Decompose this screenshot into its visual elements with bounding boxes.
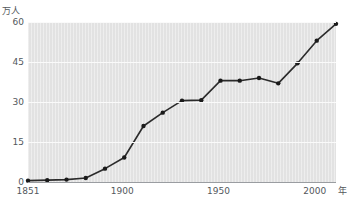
data-point-marker bbox=[257, 76, 261, 80]
y-axis-tick-label: 15 bbox=[13, 138, 24, 147]
data-point-marker bbox=[315, 38, 319, 42]
data-point-marker bbox=[84, 176, 88, 180]
data-point-marker bbox=[218, 78, 222, 82]
y-axis-tick-label: 60 bbox=[13, 18, 24, 27]
x-axis-tick-label: 1950 bbox=[207, 186, 230, 196]
gridline-y bbox=[28, 62, 336, 63]
x-axis-tick-label: 2000 bbox=[303, 186, 326, 196]
data-point-marker bbox=[141, 124, 145, 128]
x-axis-line bbox=[28, 182, 336, 183]
chart-title bbox=[0, 0, 346, 2]
data-point-marker bbox=[103, 166, 107, 170]
x-axis-unit-label: 年 bbox=[338, 186, 347, 196]
x-axis-tick-label: 1851 bbox=[17, 186, 40, 196]
plot-area: 015304560 bbox=[28, 22, 336, 182]
x-axis-tick-label: 1900 bbox=[111, 186, 134, 196]
data-point-marker bbox=[122, 155, 126, 159]
y-axis-unit-label: 万人 bbox=[2, 6, 19, 16]
data-point-marker bbox=[161, 110, 165, 114]
y-axis-tick-label: 45 bbox=[13, 58, 24, 67]
gridline-y bbox=[28, 22, 336, 23]
data-point-marker bbox=[238, 78, 242, 82]
gridline-y bbox=[28, 102, 336, 103]
gridline-y bbox=[28, 142, 336, 143]
data-point-marker bbox=[276, 81, 280, 85]
y-axis-tick-label: 30 bbox=[13, 98, 24, 107]
